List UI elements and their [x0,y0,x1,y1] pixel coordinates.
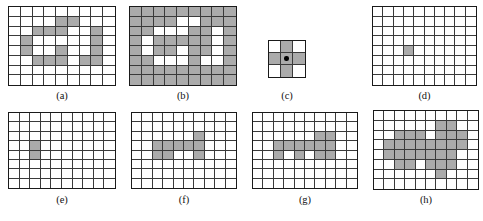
grid-cell [455,27,465,37]
grid-cell [326,141,336,150]
grid-cell [189,66,201,76]
grid-cell [336,151,346,160]
grid-cell [201,36,213,46]
grid-cell [201,27,213,37]
grid-cell [425,66,435,76]
grid-cell [383,75,393,85]
grid-cell [426,160,436,170]
grid-cell [130,66,142,76]
grid-cell [435,17,445,27]
grid-cell [130,17,142,27]
grid-cell [165,27,177,37]
grid-cell [436,131,446,141]
grid-cell [80,46,92,56]
grid-cell [174,122,184,131]
grid-cell [73,179,84,188]
grid-cell [94,179,105,188]
grid-cell [445,75,455,85]
grid-cell [394,56,404,66]
grid-cell [347,169,357,178]
grid-cell [457,111,467,121]
grid-cell [142,66,154,76]
grid-cell [174,113,184,122]
grid-cell [416,170,426,180]
grid-cell [62,151,73,160]
grid-cell [414,75,424,85]
grid-cell [94,160,105,169]
panel-b-grid [130,7,236,85]
grid-cell [165,46,177,56]
grid-cell [347,160,357,169]
grid-cell [132,151,142,160]
grid-cell [336,122,346,131]
grid-cell [466,36,476,46]
panel-g-label: (g) [252,195,358,206]
grid-cell [153,132,163,141]
grid-cell [9,66,21,76]
grid-cell [94,141,105,150]
grid-cell [68,46,80,56]
grid-cell [56,46,68,56]
grid-cell [425,56,435,66]
grid-cell [94,132,105,141]
grid-cell [404,56,414,66]
grid-cell [416,179,426,189]
grid-cell [404,17,414,27]
grid-cell [184,169,194,178]
grid-cell [184,113,194,122]
grid-cell [177,7,189,17]
grid-cell [315,160,325,169]
grid-cell [435,7,445,17]
grid-cell [414,66,424,76]
grid-cell [9,122,20,131]
grid-cell [30,169,41,178]
grid-cell [80,36,92,46]
grid-cell [466,17,476,27]
grid-cell [215,151,225,160]
grid-cell [142,122,152,131]
grid-cell [20,169,31,178]
panel-e-grid [9,113,115,188]
grid-cell [154,7,166,17]
grid-cell [153,151,163,160]
grid-cell [194,122,204,131]
grid-cell [425,7,435,17]
grid-cell [226,169,236,178]
grid-cell [165,75,177,85]
grid-cell [384,150,394,160]
grid-cell [447,140,457,150]
grid-cell [374,131,384,141]
grid-cell [68,17,80,27]
grid-cell [174,169,184,178]
grid-cell [41,141,52,150]
grid-cell [205,132,215,141]
grid-cell [56,75,68,85]
grid-cell [405,160,415,170]
panel-b-grid-frame [129,6,237,86]
grid-cell [383,36,393,46]
grid-cell [174,179,184,188]
grid-cell [455,56,465,66]
grid-cell [83,122,94,131]
grid-cell [414,17,424,27]
grid-cell [224,7,236,17]
grid-cell [83,113,94,122]
grid-cell [281,65,293,77]
grid-cell [132,141,142,150]
grid-cell [30,179,41,188]
grid-cell [21,7,33,17]
grid-cell [9,17,21,27]
grid-cell [253,132,263,141]
grid-cell [215,132,225,141]
grid-cell [426,121,436,131]
panel-c-grid-frame [268,40,306,78]
grid-cell [326,160,336,169]
grid-cell [315,132,325,141]
grid-cell [154,75,166,85]
grid-cell [130,46,142,56]
grid-cell [44,17,56,27]
grid-cell [395,179,405,189]
grid-cell [205,169,215,178]
grid-cell [30,141,41,150]
grid-cell [315,169,325,178]
